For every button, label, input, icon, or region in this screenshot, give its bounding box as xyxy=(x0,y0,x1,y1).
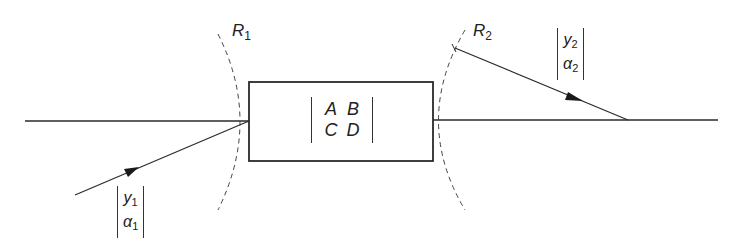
system-matrix: AB CD xyxy=(311,97,373,143)
output-ray-vector: y2 α2 xyxy=(557,28,584,80)
abcd-diagram: R1 R2 AB CD y1 α1 y2 α2 xyxy=(0,0,742,241)
output-ray-arrow-icon xyxy=(565,92,583,101)
surface-label-r1: R1 xyxy=(232,22,251,42)
input-ray xyxy=(75,121,249,195)
reference-surface-r1 xyxy=(218,34,240,210)
surface-label-r2: R2 xyxy=(473,22,492,42)
input-ray-vector: y1 α1 xyxy=(117,186,144,238)
output-ray xyxy=(455,48,628,120)
input-ray-arrow-icon xyxy=(124,167,139,177)
